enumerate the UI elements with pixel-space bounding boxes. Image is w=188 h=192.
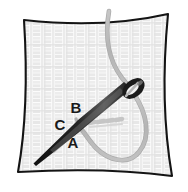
fabric-weave-coarse <box>10 6 182 186</box>
label-c: C <box>55 116 66 133</box>
fabric-swatch <box>10 6 182 186</box>
embroidery-stitch-diagram: B C A <box>0 0 188 192</box>
label-b: B <box>71 99 82 116</box>
diagram-canvas: B C A <box>0 0 188 192</box>
fabric-weave <box>10 6 182 186</box>
label-a: A <box>68 134 79 151</box>
